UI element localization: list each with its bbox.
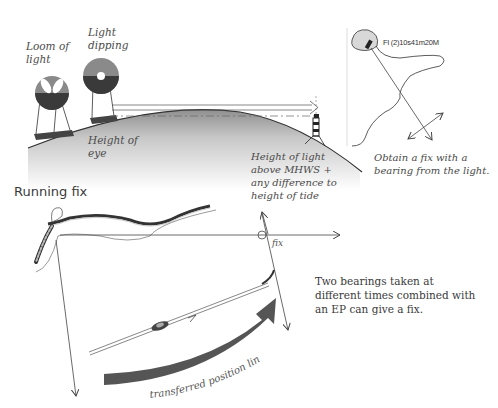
running-fix-caption: Two bearings taken at different times co…	[315, 274, 475, 316]
ep-track	[89, 270, 274, 355]
rf-depth-contour	[58, 210, 216, 240]
fix-label: fix	[272, 238, 283, 248]
bearing-line	[371, 48, 432, 140]
coastline-main	[352, 46, 444, 146]
chart-inset-caption: Obtain a fix with a bearing from the lig…	[374, 151, 489, 177]
diagram-canvas: transferred position line	[0, 0, 498, 408]
label-light-dipping: Light dipping	[88, 26, 128, 52]
label-loom-of-light: Loom of light	[26, 40, 69, 66]
observer-dipping	[83, 58, 119, 124]
label-height-of-eye: Height of eye	[88, 134, 138, 160]
running-fix-heading: Running fix	[14, 184, 87, 199]
observer-loom	[34, 76, 74, 140]
headland-bearing-line	[56, 240, 76, 396]
label-height-of-light: Height of light above MHWS + any differe…	[251, 150, 337, 202]
light-characteristic: Fl (2)10s41m20M	[383, 38, 439, 47]
coastline-island	[352, 30, 378, 51]
transferred-arrow	[104, 298, 276, 385]
position-line	[408, 113, 443, 139]
